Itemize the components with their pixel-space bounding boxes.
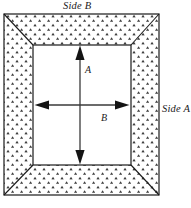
label-dimension-a: A <box>85 64 91 75</box>
label-dimension-b: B <box>101 112 107 123</box>
label-side-a: Side A <box>162 103 190 114</box>
label-side-b: Side B <box>63 0 91 11</box>
figure-container: Side B Side A A B <box>0 0 191 208</box>
